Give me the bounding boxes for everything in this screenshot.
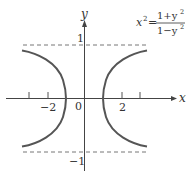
equation-numerator-exp: 2 [180, 8, 184, 16]
x-tick-label-2: 2 [119, 101, 126, 114]
y-axis-label: y [80, 7, 88, 21]
origin-label: 0 [75, 100, 82, 113]
equation: x 2 = 1+y 2 1−y 2 [136, 8, 185, 36]
equation-numerator: 1+y [157, 10, 178, 21]
y-tick-label-neg1: −1 [69, 155, 85, 168]
x-axis-arrow-icon [171, 96, 177, 101]
equation-denominator: 1−y [157, 25, 178, 36]
y-axis-arrow-icon [82, 20, 87, 27]
equation-lhs-exp: 2 [143, 15, 147, 23]
hyperbola-like-plot: y x 0 −2 2 1 −1 x 2 = 1+y 2 1−y 2 [0, 0, 195, 178]
equation-lhs: x [136, 16, 143, 29]
equation-equals: = [148, 16, 157, 29]
x-axis-label: x [179, 91, 186, 105]
x-tick-label-neg2: −2 [40, 101, 56, 114]
y-tick-label-1: 1 [77, 32, 84, 45]
equation-denominator-exp: 2 [180, 23, 184, 31]
